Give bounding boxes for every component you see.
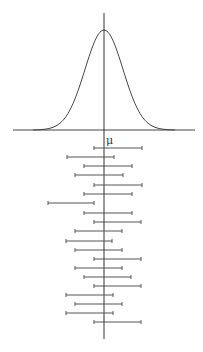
confidence-interval	[84, 275, 131, 279]
confidence-interval	[94, 257, 141, 261]
confidence-interval	[84, 164, 132, 168]
confidence-interval	[66, 293, 113, 297]
confidence-interval	[66, 239, 112, 243]
confidence-interval	[67, 155, 114, 159]
confidence-interval	[75, 173, 123, 177]
confidence-interval	[94, 320, 141, 324]
mean-label: μ	[106, 134, 113, 147]
confidence-interval	[75, 229, 122, 233]
confidence-interval	[84, 211, 132, 215]
confidence-interval	[75, 302, 122, 306]
confidence-interval	[94, 284, 141, 288]
confidence-interval	[94, 220, 141, 224]
confidence-interval	[66, 311, 113, 315]
confidence-interval	[75, 248, 122, 252]
interval-group	[48, 146, 142, 324]
confidence-interval	[48, 201, 94, 205]
confidence-interval-diagram	[0, 0, 203, 352]
confidence-interval	[94, 146, 142, 150]
confidence-interval	[75, 266, 122, 270]
confidence-interval	[94, 183, 142, 187]
confidence-interval	[84, 192, 132, 196]
